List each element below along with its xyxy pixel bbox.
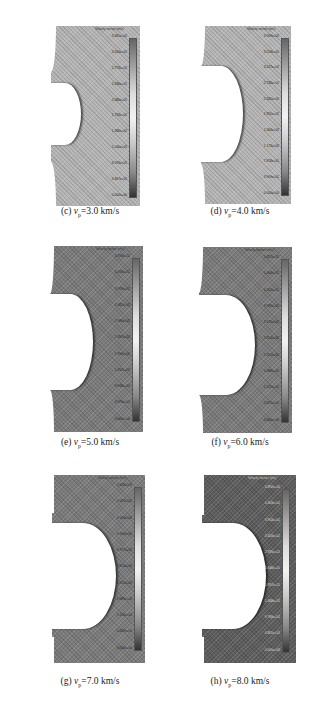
panel-h: Velocity vectors (m/s) 4.892e+02 4.403e+… [160, 455, 317, 704]
colorbar-e [132, 258, 140, 422]
panel-f: Velocity vectors (m/s) 5.627e+02 5.064e+… [160, 225, 317, 455]
simulation-image-h: Velocity vectors (m/s) 4.892e+02 4.403e+… [202, 475, 296, 663]
caption-e: (e) vp=5.0 km/s [20, 437, 160, 449]
colorbar-ticks-h: 4.892e+02 4.403e+02 3.914e+02 3.424e+02 … [248, 486, 280, 652]
crater-e [50, 294, 93, 390]
colorbar-ticks-e: 4.974e+02 4.476e+02 3.979e+02 3.482e+02 … [98, 255, 130, 421]
panel-d: Velocity vectors (m/s) 3.909e+02 3.518e+… [160, 0, 317, 225]
caption-f: (f) vp=6.0 km/s [170, 437, 310, 449]
colorbar-title-c: Velocity vectors (m/s) [95, 27, 124, 31]
simulation-image-g: Velocity vectors (m/s) 5.629e+02 5.067e+… [52, 475, 145, 663]
simulation-image-e: Velocity vectors (m/s) 4.974e+02 4.476e+… [50, 246, 143, 432]
colorbar-title-g: Velocity vectors (m/s) [98, 476, 127, 480]
colorbar-ticks-g: 5.629e+02 5.067e+02 4.503e+02 3.940e+02 … [100, 484, 132, 650]
colorbar-f [281, 259, 289, 423]
colorbar-title-d: Velocity vectors (m/s) [247, 27, 276, 31]
caption-d: (d) vp=4.0 km/s [170, 206, 310, 218]
colorbar-c [129, 38, 137, 198]
colorbar-ticks-f: 5.627e+02 5.064e+02 4.502e+02 3.939e+02 … [247, 256, 279, 422]
simulation-image-f: Velocity vectors (m/s) 5.627e+02 5.064e+… [199, 247, 292, 433]
simulation-image-d: Velocity vectors (m/s) 3.909e+02 3.518e+… [201, 26, 291, 204]
colorbar-ticks-d: 3.909e+02 3.518e+02 3.127e+02 2.736e+02 … [247, 35, 279, 195]
colorbar-h [282, 489, 290, 653]
colorbar-title-e: Velocity vectors (m/s) [96, 247, 125, 251]
caption-g: (g) vp=7.0 km/s [20, 676, 160, 688]
colorbar-title-f: Velocity vectors (m/s) [245, 248, 274, 252]
colorbar-ticks-c: 3.461e+02 3.100e+02 2.773e+02 2.436e+02 … [97, 35, 127, 197]
simulation-image-c: Velocity vectors (m/s) 3.461e+02 3.100e+… [51, 26, 140, 206]
panel-g: Velocity vectors (m/s) 5.629e+02 5.067e+… [0, 455, 160, 704]
panel-c: Velocity vectors (m/s) 3.461e+02 3.100e+… [0, 0, 160, 225]
colorbar-title-h: Velocity vectors (m/s) [248, 476, 277, 480]
crater-d [201, 66, 243, 162]
caption-c: (c) vp=3.0 km/s [20, 206, 160, 218]
colorbar-g [134, 487, 142, 651]
caption-h: (h) vp=8.0 km/s [170, 676, 310, 688]
panel-e: Velocity vectors (m/s) 4.974e+02 4.476e+… [0, 225, 160, 455]
colorbar-d [281, 38, 289, 196]
